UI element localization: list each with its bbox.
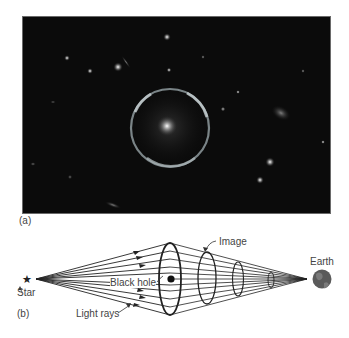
light-rays-label: Light rays	[76, 309, 119, 319]
star-icon: ★	[22, 273, 32, 285]
panel-b-label: (b)	[17, 309, 29, 319]
image-label: Image	[219, 237, 247, 247]
black-hole-dot	[167, 275, 174, 282]
gravitational-lens-diagram: ★	[0, 225, 349, 338]
image-ring-4	[268, 272, 274, 288]
black-hole-label: Black hole	[110, 278, 156, 288]
earth-label: Earth	[310, 257, 334, 267]
einstein-ring-photo	[22, 16, 331, 214]
earth-icon	[313, 270, 332, 289]
image-ring-2	[198, 252, 216, 304]
black-hole-leader	[157, 276, 163, 282]
star-label: Star	[17, 288, 35, 298]
lens-galaxy-core	[157, 116, 177, 136]
space-image	[23, 17, 331, 214]
image-cone	[170, 243, 307, 315]
